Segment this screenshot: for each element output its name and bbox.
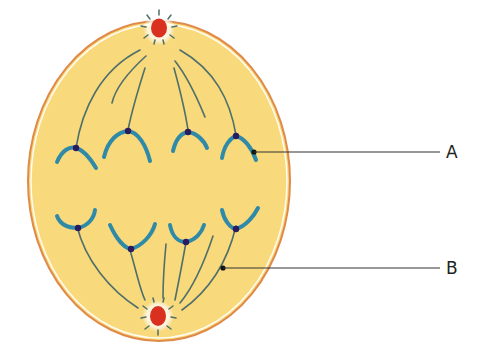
label-b-text: B (446, 258, 458, 278)
centromere (73, 145, 79, 151)
centriole (150, 306, 166, 326)
centromere (125, 128, 131, 134)
label-a-text: A (446, 142, 458, 162)
centromere (233, 226, 239, 232)
centriole (151, 19, 167, 38)
centromere (185, 129, 191, 135)
centromere (233, 133, 239, 139)
cell (28, 21, 290, 341)
centromere (183, 239, 189, 245)
cell-division-diagram: A B (0, 0, 481, 356)
centromere (75, 225, 81, 231)
cell-membrane (28, 21, 290, 341)
centromere (128, 246, 134, 252)
